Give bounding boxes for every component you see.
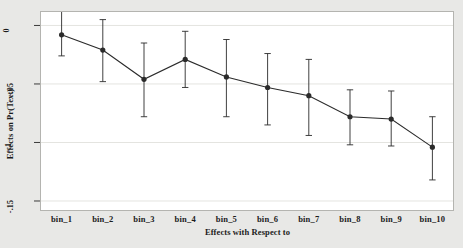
x-axis-tick-label: bin_9 <box>381 214 402 224</box>
x-axis-title: Effects with Respect to <box>40 227 455 237</box>
x-axis-tick-label: bin_1 <box>51 214 72 224</box>
x-axis-tick-label: bin_6 <box>257 214 278 224</box>
x-axis-tick-label: bin_2 <box>92 214 113 224</box>
data-point <box>306 93 311 98</box>
data-point <box>430 145 435 150</box>
y-axis-tick-label: -.15 <box>4 195 34 207</box>
x-axis-tick-label: bin_5 <box>216 214 237 224</box>
x-axis-tick-label: bin_4 <box>175 214 196 224</box>
data-point-markers <box>59 32 435 150</box>
data-point <box>347 114 352 119</box>
error-bars <box>58 12 435 180</box>
data-point <box>224 74 229 79</box>
plot-area <box>40 11 454 211</box>
y-axis-tick-label: -.1 <box>4 136 34 148</box>
data-point <box>141 77 146 82</box>
y-axis-tick-label: 0 <box>4 19 34 31</box>
y-axis-tick-label: -.05 <box>4 78 34 90</box>
data-point <box>265 85 270 90</box>
plot-canvas <box>41 12 453 210</box>
x-axis-tick-labels: bin_1bin_2bin_3bin_4bin_5bin_6bin_7bin_8… <box>0 214 463 228</box>
series-line <box>62 35 433 147</box>
data-point <box>183 57 188 62</box>
chart-figure: Effects on Pr(Text) 0-.05-.1-.15 bin_1bi… <box>0 0 463 248</box>
data-point <box>59 32 64 37</box>
x-axis-tick-label: bin_3 <box>133 214 154 224</box>
x-axis-tick-label: bin_8 <box>339 214 360 224</box>
data-point <box>100 47 105 52</box>
x-axis-tick-label: bin_7 <box>298 214 319 224</box>
x-axis-tick-label: bin_10 <box>420 214 446 224</box>
y-axis-tick-marks <box>33 11 41 211</box>
data-point <box>389 116 394 121</box>
